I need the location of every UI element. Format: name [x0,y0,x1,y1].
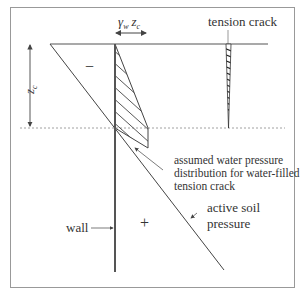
water-pressure-note: assumed water pressure distribution for … [174,154,302,192]
wall-label: wall [66,220,89,235]
figure-frame [11,8,295,288]
active-soil-leader-arrow [191,213,197,218]
zc-depth-label: zc [22,85,39,95]
positive-pressure-sign: + [140,214,149,231]
gamma-w-zc-label: γwzc [118,14,141,31]
tension-crack-shape [224,44,234,128]
negative-pressure-sign: − [85,58,94,75]
water-note-leader-arrow [135,148,163,170]
tension-crack-label: tension crack [208,14,277,29]
active-soil-pressure-label: active soil pressure [207,200,263,231]
diagram-canvas: γwzc tension crack zc − + assumed water … [0,0,302,298]
water-pressure-hatch-region [80,20,180,218]
